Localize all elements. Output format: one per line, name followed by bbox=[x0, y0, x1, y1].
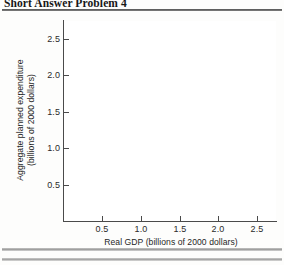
figure-page: Short Answer Problem 4 0.5 1.0 1.5 2.0 2… bbox=[0, 0, 284, 265]
y-axis-tick-2-5 bbox=[64, 39, 69, 40]
y-axis-label-2-0: 2.0 bbox=[32, 71, 60, 80]
x-axis-label-2-5: 2.5 bbox=[242, 224, 272, 234]
y-axis-tick-0-5 bbox=[64, 185, 69, 186]
y-axis-label-1-0: 1.0 bbox=[32, 144, 60, 153]
x-axis-label-2-0: 2.0 bbox=[203, 224, 233, 234]
x-axis-tick-0-5 bbox=[102, 216, 103, 221]
x-axis-label-1-5: 1.5 bbox=[165, 224, 195, 234]
y-axis-tick-2-0 bbox=[64, 75, 69, 76]
y-axis-title: Aggregate planned expenditure (billions … bbox=[14, 20, 38, 220]
y-axis-tick-1-5 bbox=[64, 112, 69, 113]
header-divider-rule bbox=[2, 9, 282, 11]
footer-divider-rule-bottom bbox=[2, 258, 282, 261]
x-axis-tick-2-5 bbox=[257, 216, 258, 221]
x-axis-title: Real GDP (billions of 2000 dollars) bbox=[64, 237, 278, 247]
y-axis-label-0-5: 0.5 bbox=[32, 181, 60, 190]
y-axis-tick-1-0 bbox=[64, 148, 69, 149]
y-axis-label-2-5: 2.5 bbox=[32, 35, 60, 44]
plot-area bbox=[64, 21, 276, 221]
y-axis-line bbox=[63, 20, 64, 222]
problem-heading-text: Short Answer Problem 4 bbox=[4, 0, 274, 9]
y-axis-title-line-1: Aggregate planned expenditure bbox=[15, 59, 26, 180]
problem-heading: Short Answer Problem 4 bbox=[4, 0, 274, 9]
aggregate-expenditure-chart: 0.5 1.0 1.5 2.0 2.5 0.5 1.0 1.5 2.0 2.5 … bbox=[0, 12, 284, 248]
footer-divider-rule-top bbox=[2, 248, 282, 251]
x-axis-tick-2-0 bbox=[218, 216, 219, 221]
x-axis-label-0-5: 0.5 bbox=[87, 224, 117, 234]
x-axis-tick-1-5 bbox=[180, 216, 181, 221]
x-axis-line bbox=[63, 221, 277, 222]
x-axis-label-1-0: 1.0 bbox=[126, 224, 156, 234]
y-axis-label-1-5: 1.5 bbox=[32, 108, 60, 117]
x-axis-tick-1-0 bbox=[141, 216, 142, 221]
